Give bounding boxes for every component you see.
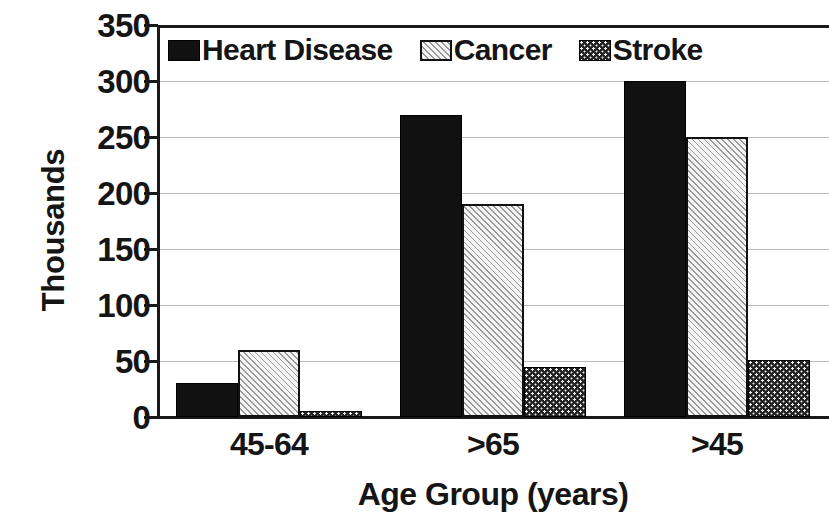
x-axis-tick-label: >65 — [467, 428, 519, 460]
y-axis-tick-label: 50 — [2, 345, 150, 378]
bar — [686, 137, 748, 417]
legend-entry: Cancer — [420, 35, 552, 65]
y-axis-tickmark — [144, 248, 158, 251]
y-axis-tick-label: 250 — [2, 121, 150, 154]
bar-series-container — [157, 25, 829, 417]
x-axis-tick-labels: 45-64>65>45 — [157, 428, 829, 472]
bar — [300, 411, 362, 417]
y-axis-tickmark — [144, 360, 158, 363]
y-axis-tickmark — [144, 136, 158, 139]
legend-label: Stroke — [613, 35, 703, 65]
y-axis-tick-label: 300 — [2, 65, 150, 98]
bar — [462, 204, 524, 417]
y-axis-tick-labels: 050100150200250300350 — [0, 0, 150, 516]
chart-legend: Heart DiseaseCancerStroke — [168, 31, 703, 69]
legend-entry: Heart Disease — [168, 35, 393, 65]
y-axis-tickmark — [144, 416, 158, 419]
bar — [524, 367, 586, 417]
y-axis-tickmark — [144, 192, 158, 195]
y-axis-tickmark — [144, 24, 158, 27]
y-axis-tick-label: 350 — [2, 9, 150, 42]
y-axis-tick-label: 150 — [2, 233, 150, 266]
y-axis-tickmark — [144, 304, 158, 307]
plot-area: Heart DiseaseCancerStroke — [157, 25, 829, 417]
bar — [624, 81, 686, 417]
y-axis-tick-label: 0 — [2, 401, 150, 434]
x-axis-tick-label: 45-64 — [230, 428, 308, 460]
legend-swatch-stroke — [579, 40, 611, 61]
bar-chart-figure: Thousands 050100150200250300350 Heart Di… — [0, 0, 829, 516]
legend-swatch-heart-disease — [168, 40, 200, 61]
legend-label: Cancer — [454, 35, 552, 65]
y-axis-tick-label: 200 — [2, 177, 150, 210]
bar — [748, 360, 810, 417]
legend-label: Heart Disease — [202, 35, 393, 65]
bar — [238, 350, 300, 417]
x-axis-title: Age Group (years) — [157, 478, 829, 510]
x-axis-tick-label: >45 — [691, 428, 743, 460]
y-axis-tickmark — [144, 80, 158, 83]
y-axis-tick-label: 100 — [2, 289, 150, 322]
bar — [176, 383, 238, 417]
legend-swatch-cancer — [420, 40, 452, 61]
legend-entry: Stroke — [579, 35, 703, 65]
bar — [400, 115, 462, 417]
